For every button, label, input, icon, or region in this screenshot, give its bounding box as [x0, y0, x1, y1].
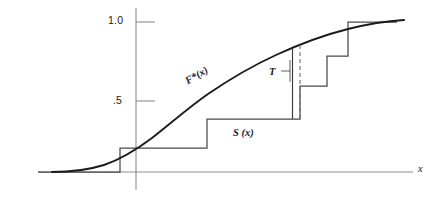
y-tick-label-1.0: 1.0 — [108, 14, 123, 26]
plot-area — [0, 0, 442, 219]
x-axis-label: x — [418, 163, 423, 174]
theoretical-cdf-curve — [52, 20, 404, 172]
deviation-label: T — [269, 66, 275, 77]
y-tick-label-0.5: .5 — [113, 94, 122, 106]
empirical-step-curve — [38, 22, 397, 172]
kolmogorov-smirnov-figure: 1.0 .5 F*(x) S (x) T x — [0, 0, 442, 219]
empirical-cdf-label: S (x) — [233, 127, 254, 138]
